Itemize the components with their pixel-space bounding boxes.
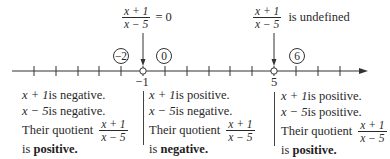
- region-middle: x + 1 is positive. x − 5 is negative. Th…: [149, 87, 257, 157]
- quotient-fraction: x + 1 x − 5: [358, 119, 386, 144]
- region-right: x + 1 is positive. x − 5 is positive. Th…: [281, 88, 389, 158]
- axis-arrowhead: [359, 68, 368, 74]
- quotient-fraction: x + 1 x − 5: [99, 118, 127, 143]
- region-result-sign: negative.: [160, 141, 208, 157]
- region-result-sign: positive.: [33, 141, 77, 157]
- annotation-text: = 0: [155, 10, 171, 25]
- annotation-undefined: x + 1 x − 5 is undefined: [251, 5, 350, 30]
- test-value-6: 6: [289, 48, 305, 64]
- annotation-equals-zero: x + 1 x − 5 = 0: [120, 5, 172, 30]
- quotient-fraction: x + 1 x − 5: [226, 118, 254, 143]
- test-value-neg2: −2: [113, 48, 129, 64]
- region-line-quotient: Their quotient x + 1 x − 5: [149, 119, 257, 141]
- region-line-quotient: Their quotient x + 1 x − 5: [22, 119, 130, 141]
- critical-point-label-neg1: −1: [135, 75, 148, 90]
- region-divider-neg1: [143, 91, 144, 145]
- test-value-0: 0: [156, 48, 172, 64]
- region-line-numerator-sign: x + 1 is positive.: [281, 88, 389, 104]
- region-left: x + 1 is negative. x − 5 is negative. Th…: [22, 87, 130, 157]
- region-line-result: is negative.: [149, 141, 257, 157]
- region-line-numerator-sign: x + 1 is positive.: [149, 87, 257, 103]
- region-line-result: is positive.: [281, 142, 389, 158]
- region-result-sign: positive.: [292, 142, 336, 158]
- region-line-quotient: Their quotient x + 1 x − 5: [281, 120, 389, 142]
- region-line-numerator-sign: x + 1 is negative.: [22, 87, 130, 103]
- quotient-fraction: x + 1 x − 5: [122, 5, 150, 30]
- quotient-fraction: x + 1 x − 5: [253, 5, 281, 30]
- region-line-result: is positive.: [22, 141, 130, 157]
- annotation-text: is undefined: [288, 10, 349, 25]
- region-divider-5: [274, 92, 275, 146]
- critical-point-label-5: 5: [271, 75, 277, 90]
